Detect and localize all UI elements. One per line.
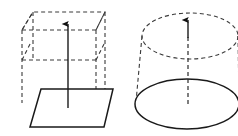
geometry-figure-canvas [0,0,238,136]
prism-base-fill [30,89,113,127]
prism-base-face [30,89,113,127]
geometry-figure-svg [0,0,238,136]
